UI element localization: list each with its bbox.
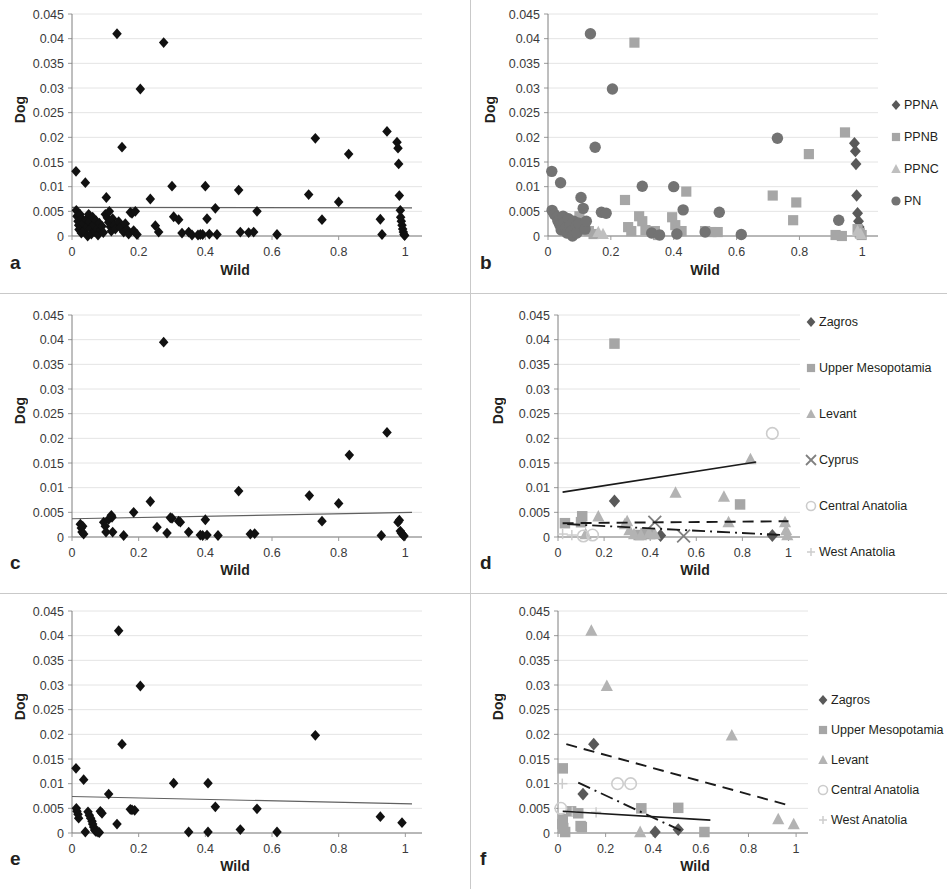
legend-item-central-anatolia[interactable]: Central Anatolia xyxy=(815,783,944,797)
svg-text:0: 0 xyxy=(555,842,562,856)
svg-text:0: 0 xyxy=(545,245,552,259)
svg-text:0: 0 xyxy=(69,245,76,259)
panel-c: c Dog Wild 0.0450.040.0350.030.0250.020.… xyxy=(0,293,470,593)
diamond-marker-icon xyxy=(888,98,904,112)
svg-text:0.8: 0.8 xyxy=(734,546,751,560)
legend-item-pn[interactable]: PN xyxy=(888,194,939,208)
legend-item-cyprus[interactable]: Cyprus xyxy=(803,453,932,467)
legend-item-label: Zagros xyxy=(819,315,858,329)
svg-text:1: 1 xyxy=(402,546,409,560)
panel-f: f Dog Wild 0.0450.040.0350.030.0250.020.… xyxy=(470,593,947,889)
svg-text:1: 1 xyxy=(785,546,792,560)
legend-item-levant[interactable]: Levant xyxy=(803,407,932,421)
legend-item-west-anatolia[interactable]: West Anatolia xyxy=(815,813,944,827)
svg-text:0.2: 0.2 xyxy=(597,842,614,856)
triangle-marker-icon xyxy=(888,162,904,176)
legend-item-label: Cyprus xyxy=(819,453,859,467)
svg-text:0.04: 0.04 xyxy=(526,629,550,643)
svg-text:0.005: 0.005 xyxy=(519,802,550,816)
panel-d-x-axis-label: Wild xyxy=(640,562,750,578)
svg-text:1: 1 xyxy=(859,245,866,259)
svg-text:0.01: 0.01 xyxy=(526,777,550,791)
svg-text:0.01: 0.01 xyxy=(40,481,64,495)
legend-item-label: PPNB xyxy=(904,130,938,144)
svg-text:0.005: 0.005 xyxy=(33,506,64,520)
plus-marker-icon xyxy=(803,545,819,559)
panel-f-y-axis-label: Dog xyxy=(490,693,506,720)
panel-b-letter: b xyxy=(480,252,492,274)
svg-text:0: 0 xyxy=(57,230,64,244)
svg-text:0.005: 0.005 xyxy=(33,802,64,816)
open-circle-marker-icon xyxy=(815,783,831,797)
panel-a: a Dog Wild 0.0450.040.0350.030.0250.020.… xyxy=(0,0,470,293)
square-marker-icon xyxy=(803,361,819,375)
svg-text:1: 1 xyxy=(402,842,409,856)
panel-b-y-axis-label: Dog xyxy=(482,96,498,123)
panel-e-y-axis-label: Dog xyxy=(12,693,28,720)
legend-item-label: PPNA xyxy=(904,98,938,112)
svg-text:0.025: 0.025 xyxy=(33,106,64,120)
svg-text:0.6: 0.6 xyxy=(263,245,280,259)
panel-c-x-axis-label: Wild xyxy=(180,562,290,578)
svg-text:0.02: 0.02 xyxy=(526,728,550,742)
circle-marker-icon xyxy=(888,194,904,208)
svg-text:0.025: 0.025 xyxy=(33,407,64,421)
triangle-marker-icon xyxy=(803,407,819,421)
open-circle-marker-icon xyxy=(803,499,819,513)
svg-text:0.005: 0.005 xyxy=(519,506,550,520)
svg-text:0.03: 0.03 xyxy=(40,679,64,693)
svg-text:0.6: 0.6 xyxy=(263,546,280,560)
panel-b: b Dog Wild 0.0450.040.0350.030.0250.020.… xyxy=(470,0,947,293)
svg-text:0.8: 0.8 xyxy=(330,245,347,259)
svg-text:0.4: 0.4 xyxy=(641,546,658,560)
svg-text:1: 1 xyxy=(793,842,800,856)
legend-item-west-anatolia[interactable]: West Anatolia xyxy=(803,545,932,559)
svg-text:0.015: 0.015 xyxy=(519,753,550,767)
svg-text:0.8: 0.8 xyxy=(740,842,757,856)
legend-item-ppna[interactable]: PPNA xyxy=(888,98,939,112)
svg-text:0: 0 xyxy=(57,827,64,841)
legend-item-central-anatolia[interactable]: Central Anatolia xyxy=(803,499,932,513)
svg-text:0.01: 0.01 xyxy=(40,777,64,791)
legend-item-ppnb[interactable]: PPNB xyxy=(888,130,939,144)
svg-text:0.4: 0.4 xyxy=(645,842,662,856)
panel-c-letter: c xyxy=(10,552,21,574)
panel-d-legend: ZagrosUpper MesopotamiaLevantCyprusCentr… xyxy=(803,315,932,591)
legend-item-upper-mesopotamia[interactable]: Upper Mesopotamia xyxy=(815,723,944,737)
svg-text:0: 0 xyxy=(543,827,550,841)
svg-text:0: 0 xyxy=(69,842,76,856)
diamond-marker-icon xyxy=(815,693,831,707)
panel-a-chart: 0.0450.040.0350.030.0250.020.0150.010.00… xyxy=(0,0,470,293)
svg-text:0.01: 0.01 xyxy=(526,481,550,495)
panel-d-letter: d xyxy=(480,552,492,574)
svg-text:0.2: 0.2 xyxy=(602,245,619,259)
svg-text:0.005: 0.005 xyxy=(509,205,540,219)
svg-text:0.015: 0.015 xyxy=(509,156,540,170)
svg-text:0.02: 0.02 xyxy=(526,432,550,446)
svg-text:0.035: 0.035 xyxy=(519,358,550,372)
svg-text:0.035: 0.035 xyxy=(33,57,64,71)
legend-item-label: Upper Mesopotamia xyxy=(819,361,932,375)
svg-text:0.6: 0.6 xyxy=(692,842,709,856)
svg-text:0.6: 0.6 xyxy=(728,245,745,259)
legend-item-zagros[interactable]: Zagros xyxy=(803,315,932,329)
svg-text:0.03: 0.03 xyxy=(516,82,540,96)
legend-item-levant[interactable]: Levant xyxy=(815,753,944,767)
figure-panel-grid: a Dog Wild 0.0450.040.0350.030.0250.020.… xyxy=(0,0,947,889)
panel-d-y-axis-label: Dog xyxy=(490,397,506,424)
square-marker-icon xyxy=(888,130,904,144)
svg-text:0.6: 0.6 xyxy=(688,546,705,560)
svg-text:0.4: 0.4 xyxy=(197,842,214,856)
plus-marker-icon xyxy=(815,813,831,827)
svg-text:0.025: 0.025 xyxy=(509,106,540,120)
svg-text:0.035: 0.035 xyxy=(519,654,550,668)
legend-item-zagros[interactable]: Zagros xyxy=(815,693,944,707)
legend-item-label: Central Anatolia xyxy=(831,783,919,797)
legend-item-ppnc[interactable]: PPNC xyxy=(888,162,939,176)
svg-text:0.04: 0.04 xyxy=(40,333,64,347)
svg-text:0.02: 0.02 xyxy=(40,131,64,145)
svg-text:0.03: 0.03 xyxy=(40,82,64,96)
legend-item-upper-mesopotamia[interactable]: Upper Mesopotamia xyxy=(803,361,932,375)
legend-item-label: West Anatolia xyxy=(831,813,907,827)
svg-text:0.045: 0.045 xyxy=(519,605,550,619)
